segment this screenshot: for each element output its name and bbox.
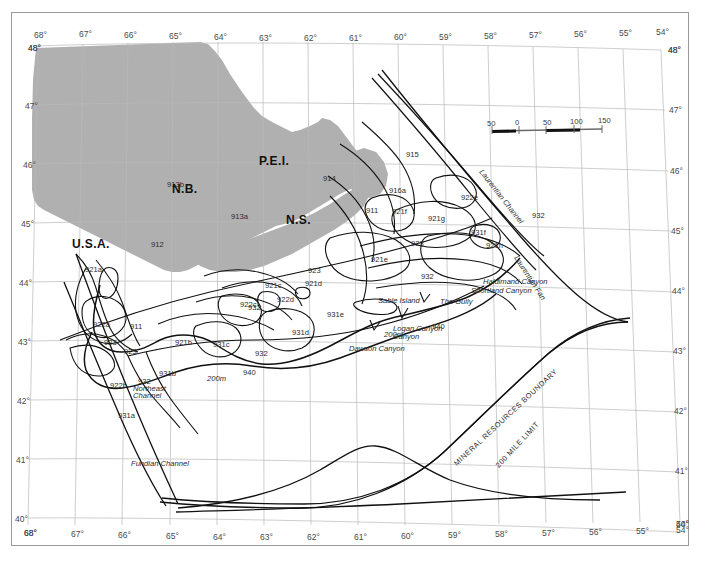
longitude-tick-top-5: 63° (259, 33, 272, 43)
latitude-tick-right-4: 44° (672, 286, 685, 296)
longitude-tick-bottom-6: 62° (307, 532, 320, 542)
zone-label-932-11: 932 (532, 211, 545, 220)
feature-label-3: Shortland Canyon (471, 286, 532, 295)
feature-label-4: Sable Island (378, 296, 420, 305)
zone-label-923-37: 923 (124, 347, 137, 356)
longitude-tick-top-4: 64° (214, 32, 227, 42)
longitude-tick-bottom-13: 55° (636, 526, 649, 536)
zone-label-931e-28: 931e (327, 310, 344, 319)
zone-label-921a-16: 921a (85, 265, 102, 274)
scale-label-2: 50 (543, 118, 551, 127)
scale-label-0: 50 (487, 119, 495, 128)
longitude-tick-top-12: 56° (574, 29, 587, 39)
feature-label-12: 200m (207, 374, 226, 383)
longitude-tick-bottom-12: 56° (589, 527, 602, 537)
longitude-tick-bottom-11: 57° (542, 528, 555, 538)
zone-label-921c-21: 921c (265, 281, 281, 290)
latitude-tick-right-2: 46° (670, 166, 683, 176)
longitude-tick-top-6: 62° (304, 33, 317, 43)
scale-label-4: 150 (598, 116, 611, 125)
province-label-usa: U.S.A. (72, 237, 110, 251)
scale-label-1: 0 (515, 118, 519, 127)
zone-label-921g-8: 921g (428, 214, 445, 223)
latitude-tick-left-6: 42° (17, 396, 30, 406)
corner-label-top-left: 48° (28, 43, 41, 53)
longitude-tick-top-1: 67° (79, 29, 92, 39)
longitude-tick-top-8: 60° (394, 32, 407, 42)
zone-label-922a-17: 922a (93, 320, 110, 329)
longitude-tick-top-13: 55° (619, 28, 632, 38)
corner-label-top-right: 48° (668, 45, 681, 55)
zone-label-931d-27: 931d (292, 328, 309, 337)
map-page: 68°67°66°65°64°63°62°61°60°59°58°57°56°5… (0, 0, 702, 579)
latitude-tick-left-4: 44° (19, 278, 32, 288)
corner-label-bottom-left: 68° (24, 528, 37, 538)
latitude-tick-left-1: 47° (25, 101, 38, 111)
zone-label-931f-15: 931f (471, 228, 486, 237)
longitude-tick-bottom-9: 59° (448, 530, 461, 540)
longitude-tick-top-9: 59° (439, 32, 452, 42)
zone-label-931c-26: 931c (213, 340, 229, 349)
feature-label-8: Dawson Canyon (349, 344, 405, 353)
zone-label-931b-31: 931b (159, 369, 176, 378)
longitude-tick-bottom-2: 66° (118, 530, 131, 540)
longitude-tick-bottom-7: 61° (354, 532, 367, 542)
zone-label-932-29: 932 (255, 349, 268, 358)
zone-label-922b-32: 922b (110, 381, 127, 390)
feature-label-11: Fundian Channel (131, 459, 189, 468)
zone-label-911-6: 911 (366, 206, 378, 215)
map-vector-layer (0, 0, 702, 579)
feature-label-10: Channel (133, 391, 161, 400)
latitude-tick-left-8: 40° (15, 514, 28, 524)
zone-label-940-35: 940 (243, 368, 256, 377)
province-label-ns: N.S. (286, 213, 311, 227)
zone-label-921d-22: 921d (305, 279, 322, 288)
longitude-tick-top-10: 58° (484, 31, 497, 41)
zone-label-932-14: 932 (421, 272, 434, 281)
zone-label-921f-7: 921f (392, 207, 407, 216)
longitude-tick-top-7: 61° (349, 33, 362, 43)
zone-label-914-3: 914 (323, 174, 336, 183)
longitude-tick-bottom-3: 65° (166, 531, 179, 541)
scale-label-3: 100 (570, 117, 583, 126)
zone-label-915-4: 915 (406, 150, 419, 159)
longitude-tick-bottom-5: 63° (260, 532, 273, 542)
latitude-tick-left-5: 43° (18, 337, 31, 347)
zone-label-921e-13: 921e (371, 255, 388, 264)
map-canvas: 68°67°66°65°64°63°62°61°60°59°58°57°56°5… (0, 0, 702, 579)
zone-label-922d-23: 922d (277, 295, 294, 304)
latitude-tick-right-3: 45° (671, 226, 684, 236)
latitude-tick-right-6: 42° (674, 406, 687, 416)
latitude-tick-right-1: 47° (669, 105, 682, 115)
longitude-tick-top-3: 65° (169, 31, 182, 41)
zone-label-923-25: 923 (308, 266, 321, 275)
zone-label-911-19: 911 (130, 322, 142, 331)
longitude-tick-top-2: 66° (124, 30, 137, 40)
feature-label-5: The Gully (440, 297, 473, 306)
latitude-tick-right-7: 41° (675, 466, 688, 476)
longitude-tick-top-14: 54° (656, 27, 669, 37)
zone-label-912-2: 912 (151, 240, 164, 249)
zone-label-913a-1: 913a (231, 212, 248, 221)
longitude-tick-bottom-10: 58° (495, 529, 508, 539)
province-label-nb: N.B. (172, 182, 198, 196)
zone-label-921h-10: 921h (486, 241, 503, 250)
zone-label-931a-34: 931a (118, 411, 135, 420)
zone-label-923-12: 923 (411, 239, 424, 248)
longitude-tick-top-11: 57° (529, 30, 542, 40)
longitude-tick-bottom-4: 64° (213, 532, 226, 542)
latitude-tick-right-5: 43° (673, 346, 686, 356)
zone-label-922e-9: 922e (461, 193, 478, 202)
feature-label-13: 200m (384, 330, 403, 339)
corner-label-bottom-right: 54° (676, 519, 689, 529)
latitude-tick-left-2: 46° (23, 160, 36, 170)
zone-label-921b-20: 921b (175, 338, 192, 347)
zone-label-923-18: 923 (104, 338, 117, 347)
longitude-tick-top-0: 68° (34, 30, 47, 40)
province-label-pei: P.E.I. (259, 154, 289, 168)
latitude-tick-left-7: 41° (16, 455, 29, 465)
zone-label-932-30: 932 (248, 303, 261, 312)
zone-label-916a-5: 916a (389, 186, 406, 195)
latitude-tick-left-3: 45° (21, 219, 34, 229)
bathymetry-200m-contour (84, 258, 520, 388)
